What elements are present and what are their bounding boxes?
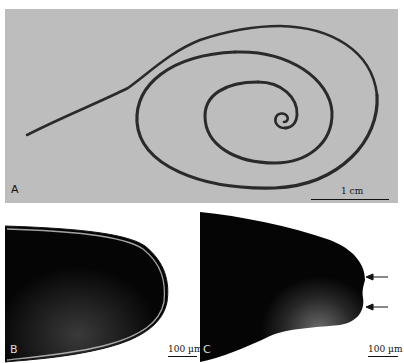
- scale-bar-a: [311, 199, 389, 200]
- scale-bar-label-a: 1 cm: [341, 186, 363, 196]
- panel-b-worm-tip: B 100 µm: [5, 210, 197, 363]
- panel-label-a: A: [11, 183, 19, 196]
- scale-bar-label-b: 100 µm: [168, 344, 202, 354]
- worm-tip-micrograph-c: [200, 210, 404, 363]
- panel-label-c: C: [203, 343, 211, 356]
- panel-a-worm-spiral: A 1 cm: [5, 9, 398, 203]
- scale-bar-label-c: 100 µm: [368, 344, 402, 354]
- panel-label-b: B: [10, 343, 18, 356]
- panel-c-worm-tip: C 100 µm: [200, 210, 404, 363]
- worm-tip-micrograph-b: [5, 210, 197, 363]
- scale-bar-c: [368, 356, 398, 357]
- worm-spiral-illustration: [5, 9, 398, 203]
- scale-bar-b: [168, 356, 197, 357]
